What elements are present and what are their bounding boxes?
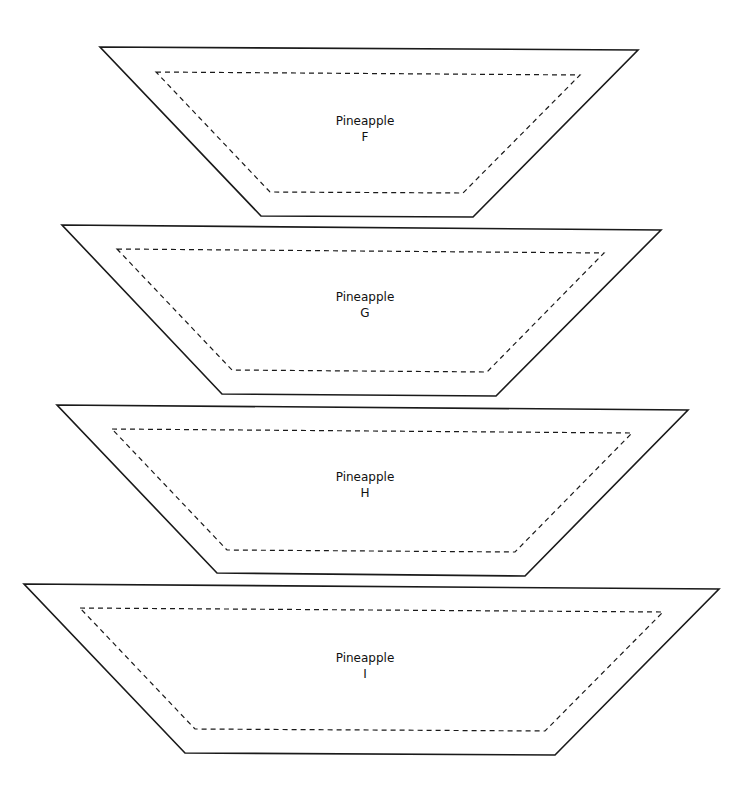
piece-name-label: Pineapple: [336, 470, 395, 484]
pattern-piece-i: Pineapple I: [24, 584, 719, 755]
piece-name-label: Pineapple: [336, 114, 395, 128]
pattern-piece-f: Pineapple F: [100, 47, 638, 217]
piece-name-label: Pineapple: [336, 290, 395, 304]
piece-letter-label: F: [362, 130, 369, 144]
piece-letter-label: I: [363, 667, 367, 681]
pattern-sheet: Pineapple F Pineapple G Pineapple H Pine…: [0, 0, 729, 806]
cut-line: [100, 47, 638, 217]
piece-name-label: Pineapple: [336, 651, 395, 665]
cut-line: [57, 405, 688, 576]
piece-letter-label: G: [360, 306, 369, 320]
piece-letter-label: H: [360, 486, 369, 500]
pattern-piece-h: Pineapple H: [57, 405, 688, 576]
pattern-piece-g: Pineapple G: [62, 225, 661, 396]
